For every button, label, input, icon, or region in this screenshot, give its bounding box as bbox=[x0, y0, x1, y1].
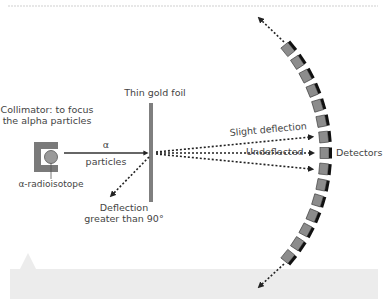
alpha-particles-label: particles bbox=[86, 156, 127, 167]
detector bbox=[290, 237, 306, 253]
radioisotope-label: α-radioisotope bbox=[18, 179, 84, 189]
detector bbox=[306, 209, 321, 224]
radioisotope-source bbox=[45, 151, 58, 164]
detector bbox=[319, 131, 332, 143]
collimator-label-line2: the alpha particles bbox=[3, 115, 92, 126]
collimator-label-line1: Collimator: to focus bbox=[1, 104, 94, 115]
footer-band bbox=[10, 253, 378, 299]
detector bbox=[312, 194, 327, 208]
detector bbox=[281, 41, 297, 57]
detector bbox=[306, 83, 321, 98]
collimator bbox=[34, 142, 58, 179]
detectors-label: Detectors bbox=[336, 147, 382, 158]
undeflected-label: Undeflected bbox=[246, 146, 304, 157]
top-escape-beam bbox=[260, 19, 284, 42]
detector bbox=[290, 54, 306, 70]
detector bbox=[299, 223, 315, 238]
detector bbox=[312, 98, 327, 112]
detector bbox=[299, 68, 315, 83]
rutherford-diagram: Collimator: to focus the alpha particles… bbox=[0, 0, 387, 299]
detector bbox=[316, 114, 330, 127]
alpha-symbol-label: α bbox=[103, 139, 109, 150]
gold-foil-label: Thin gold foil bbox=[123, 87, 185, 98]
deflection-label-line2: greater than 90° bbox=[84, 213, 163, 224]
slight-deflection-label: Slight deflection bbox=[229, 120, 307, 138]
deflection-label-line1: Deflection bbox=[100, 202, 148, 213]
detector bbox=[316, 179, 330, 192]
detector bbox=[320, 148, 332, 159]
gold-foil bbox=[149, 103, 153, 202]
detector bbox=[281, 249, 297, 265]
detector bbox=[319, 163, 332, 175]
